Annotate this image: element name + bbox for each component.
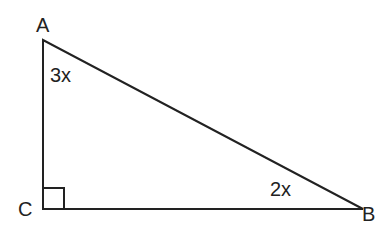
vertex-label-c: C [18,198,32,220]
triangle-diagram: A C B 3x 2x [0,0,390,238]
angle-label-a: 3x [50,64,71,86]
vertex-label-b: B [362,203,375,225]
vertex-label-a: A [36,14,50,36]
angle-label-b: 2x [270,178,291,200]
triangle-abc [43,40,363,209]
right-angle-marker [43,188,64,209]
